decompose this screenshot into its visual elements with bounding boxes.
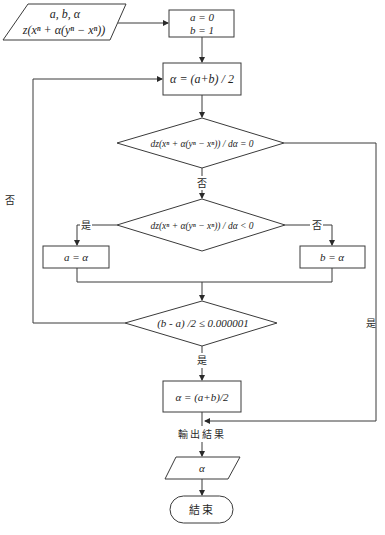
- node-cond-zero: dz(xⁿ + α(yⁿ − xⁿ)) / dα = 0: [117, 118, 284, 168]
- node-cond-tol: (b - a) /2 ≤ 0.000001: [125, 301, 277, 346]
- node-cond-neg: dz(xⁿ + α(yⁿ − xⁿ)) / dα < 0: [117, 199, 285, 251]
- end-text: 結束: [189, 503, 215, 517]
- init-line1: a = 0: [190, 11, 214, 23]
- edge-condtol-no-loop: [33, 79, 162, 323]
- set-b-text: b = α: [320, 251, 344, 263]
- output-text: α: [199, 462, 205, 474]
- edge-condneg-yes-b: [77, 225, 80, 245]
- node-set-a: a = α: [43, 246, 109, 268]
- flowchart-canvas: a, b, α z(xⁿ + α(yⁿ − xⁿ)) a = 0 b = 1 α…: [0, 0, 385, 535]
- input-line1: a, b, α: [50, 7, 81, 21]
- node-end: 結束: [170, 496, 233, 523]
- label-no-condtol: 否: [5, 195, 15, 206]
- label-no-condneg: 否: [312, 220, 322, 231]
- set-a-text: a = α: [64, 251, 88, 263]
- mid-text: α = (a+b) / 2: [170, 72, 234, 86]
- label-no-condzero: 否: [197, 178, 207, 189]
- label-yes-condneg: 是: [81, 220, 91, 231]
- node-output: α: [165, 457, 240, 479]
- cond-neg-text: dz(xⁿ + α(yⁿ − xⁿ)) / dα < 0: [150, 221, 253, 232]
- final-mid-text: α = (a+b)/2: [175, 391, 229, 404]
- node-init: a = 0 b = 1: [169, 10, 234, 37]
- label-output-result: 輸出結果: [178, 428, 226, 440]
- node-input: a, b, α z(xⁿ + α(yⁿ − xⁿ)): [3, 4, 126, 40]
- edge-merge: [77, 268, 332, 282]
- cond-zero-text: dz(xⁿ + α(yⁿ − xⁿ)) / dα = 0: [150, 139, 253, 150]
- node-mid: α = (a+b) / 2: [163, 63, 241, 95]
- edge-condneg-no-b: [323, 225, 332, 245]
- label-yes-condtol: 是: [197, 355, 207, 366]
- node-set-b: b = α: [300, 246, 365, 268]
- init-line2: b = 1: [190, 24, 214, 36]
- input-line2: z(xⁿ + α(yⁿ − xⁿ)): [22, 23, 105, 37]
- label-yes-condzero: 是: [366, 318, 376, 329]
- node-final-mid: α = (a+b)/2: [163, 381, 241, 412]
- cond-tol-text: (b - a) /2 ≤ 0.000001: [157, 317, 249, 330]
